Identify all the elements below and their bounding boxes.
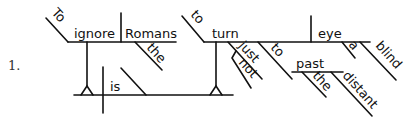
- word-the-1: the: [144, 40, 169, 66]
- word-blind: blind: [373, 38, 406, 72]
- word-to-predicate: to: [188, 7, 208, 27]
- baseline: is: [74, 67, 233, 113]
- word-is: is: [110, 79, 121, 94]
- item-number: 1.: [8, 58, 20, 73]
- sentence-diagram: 1. To ignore Romans the is to turn eye a…: [0, 0, 411, 126]
- word-distant: distant: [340, 68, 381, 112]
- word-turn: turn: [212, 26, 239, 41]
- word-to-subject: To: [48, 4, 69, 25]
- predicate-phrase: to turn eye a blind just not to past the…: [182, 7, 405, 116]
- word-romans: Romans: [125, 26, 177, 41]
- word-ignore: ignore: [74, 26, 115, 41]
- word-eye: eye: [318, 26, 342, 41]
